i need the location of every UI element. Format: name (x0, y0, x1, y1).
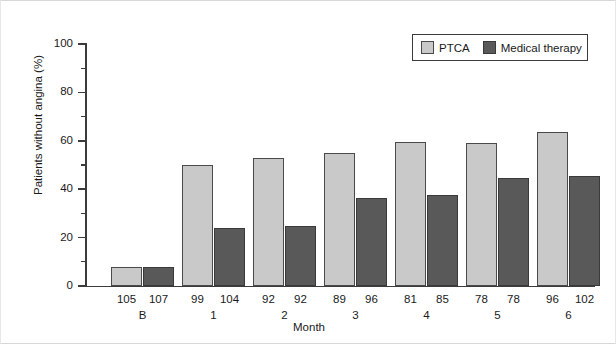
bar-ptca (395, 142, 426, 286)
bar-medical-therapy (143, 267, 174, 286)
y-tick-label: 0 (33, 280, 73, 292)
x-category-label: 3 (326, 309, 386, 321)
legend-label-medical-therapy: Medical therapy (501, 42, 582, 54)
legend-item-medical-therapy: Medical therapy (483, 41, 582, 54)
bar-medical-therapy (285, 226, 316, 287)
bar-medical-therapy (498, 178, 529, 286)
x-category-label: 4 (397, 309, 457, 321)
sample-size-ptca: 89 (323, 293, 357, 305)
sample-size-ptca: 92 (252, 293, 286, 305)
plot-area (85, 44, 595, 286)
bar-ptca (111, 267, 142, 286)
chart-legend: PTCA Medical therapy (412, 34, 588, 61)
legend-label-ptca: PTCA (439, 42, 470, 54)
x-category-label: B (113, 309, 173, 321)
chart-figure: 020406080100 Patients without angina (%)… (0, 0, 616, 344)
sample-size-medical-therapy: 104 (213, 293, 247, 305)
bar-medical-therapy (427, 195, 458, 286)
bar-ptca (537, 132, 568, 286)
legend-item-ptca: PTCA (421, 41, 470, 54)
y-tick-major (78, 237, 85, 239)
sample-size-ptca: 96 (536, 293, 570, 305)
y-tick-major (78, 285, 85, 287)
x-category-label: 1 (184, 309, 244, 321)
sample-size-medical-therapy: 102 (568, 293, 602, 305)
bar-ptca (182, 165, 213, 286)
sample-size-ptca: 78 (465, 293, 499, 305)
y-tick-major (78, 188, 85, 190)
y-axis-title: Patients without angina (%) (32, 10, 44, 240)
y-tick-major (78, 140, 85, 142)
sample-size-medical-therapy: 78 (497, 293, 531, 305)
bar-medical-therapy (569, 176, 600, 286)
bar-medical-therapy (356, 198, 387, 286)
y-tick-major (78, 92, 85, 94)
sample-size-ptca: 99 (181, 293, 215, 305)
bar-ptca (466, 143, 497, 286)
x-category-label: 5 (468, 309, 528, 321)
sample-size-medical-therapy: 96 (355, 293, 389, 305)
x-category-label: 2 (255, 309, 315, 321)
x-axis-title: Month (1, 321, 616, 333)
y-tick-major (78, 43, 85, 45)
sample-size-medical-therapy: 107 (142, 293, 176, 305)
sample-size-ptca: 105 (110, 293, 144, 305)
bar-ptca (253, 158, 284, 286)
bar-medical-therapy (214, 228, 245, 286)
bar-ptca (324, 153, 355, 286)
sample-size-medical-therapy: 92 (284, 293, 318, 305)
x-category-label: 6 (539, 309, 599, 321)
legend-swatch-medical-therapy (483, 41, 496, 54)
sample-size-medical-therapy: 85 (426, 293, 460, 305)
legend-swatch-ptca (421, 41, 434, 54)
sample-size-ptca: 81 (394, 293, 428, 305)
